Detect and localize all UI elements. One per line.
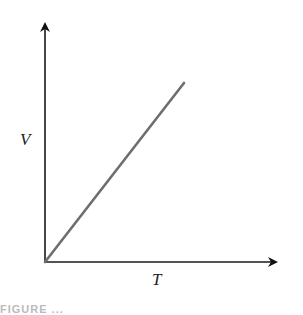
x-axis-label: T [152,270,161,290]
figure-caption: FIGURE ... [0,303,64,315]
data-line [45,83,184,262]
y-axis-label: V [20,130,30,150]
